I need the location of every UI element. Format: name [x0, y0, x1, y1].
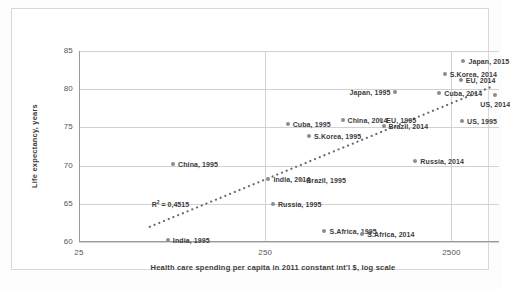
y-tick-label-60: 60 — [64, 238, 73, 246]
data-point — [382, 124, 386, 128]
data-point-label: India, 2014 — [273, 175, 310, 182]
data-point — [443, 72, 447, 76]
data-point-label: S.Africa, 2014 — [367, 231, 414, 238]
y-tick-label-65: 65 — [64, 200, 73, 208]
data-point-label: Japan, 1995 — [350, 89, 391, 96]
data-point-label: Cuba, 2014 — [444, 90, 482, 97]
data-point — [322, 229, 326, 233]
data-point-label: Brazil, 2014 — [389, 122, 429, 129]
data-point — [341, 118, 345, 122]
chart-frame: Life expectancy, years 606570758085 2525… — [11, 8, 489, 270]
data-point-label: S.Korea, 1995 — [314, 132, 361, 139]
r-squared-annotation: R2 = 0,4515 — [152, 199, 189, 208]
data-point-label: Brazil, 1995 — [306, 177, 346, 184]
y-axis-title: Life expectancy, years — [30, 104, 39, 188]
data-point — [299, 178, 303, 182]
data-point — [493, 93, 497, 97]
data-point-label: Russia, 2014 — [420, 158, 464, 165]
x-tick-label-2500: 2500 — [442, 249, 461, 257]
plot-area: 606570758085 252502500 India, 1995China,… — [79, 51, 499, 242]
data-point — [459, 78, 463, 82]
data-point-label: India, 1995 — [173, 236, 210, 243]
data-point — [266, 177, 270, 181]
data-point — [393, 90, 397, 94]
x-tick-label-25: 25 — [74, 249, 83, 257]
gridline-x-2500 — [451, 51, 452, 242]
data-point — [461, 59, 465, 63]
x-axis-title: Health care spending per capita in 2011 … — [12, 263, 488, 272]
data-point-label: China, 1995 — [178, 161, 218, 168]
gridline-y-70 — [79, 166, 499, 167]
x-tick-label-250: 250 — [258, 249, 272, 257]
gridline-y-60 — [79, 242, 499, 243]
gridline-y-85 — [79, 51, 499, 52]
data-point — [271, 202, 275, 206]
x-axis-title-text: Health care spending per capita in 2011 … — [105, 263, 396, 272]
gridline-y-80 — [79, 89, 499, 90]
data-point — [437, 91, 441, 95]
data-point — [166, 238, 170, 242]
data-point — [379, 118, 383, 122]
gridline-x-250 — [265, 51, 266, 242]
data-point-label: Japan, 2015 — [468, 57, 509, 64]
data-point — [360, 232, 364, 236]
data-point-label: EU, 2014 — [466, 77, 496, 84]
trendline — [79, 51, 499, 242]
data-point — [413, 159, 417, 163]
y-axis-line — [79, 51, 80, 242]
y-tick-label-70: 70 — [64, 162, 73, 170]
y-tick-label-85: 85 — [64, 47, 73, 55]
data-point-label: US, 1995 — [467, 118, 497, 125]
x-axis-line — [79, 241, 499, 242]
y-tick-label-80: 80 — [64, 85, 73, 93]
data-point-label: US, 2014 — [480, 101, 510, 108]
data-point — [460, 119, 464, 123]
data-point-label: Russia, 1995 — [278, 200, 322, 207]
data-point — [171, 162, 175, 166]
data-point — [307, 134, 311, 138]
data-point-label: Cuba, 1995 — [293, 120, 331, 127]
data-point — [286, 122, 290, 126]
y-tick-label-75: 75 — [64, 123, 73, 131]
gridline-y-75 — [79, 127, 499, 128]
